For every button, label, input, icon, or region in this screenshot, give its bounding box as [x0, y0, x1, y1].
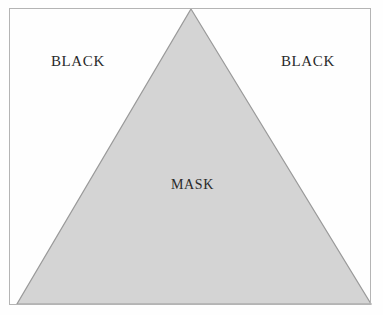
- label-black-left: BLACK: [51, 54, 105, 69]
- label-mask-region: MASK: [171, 178, 214, 192]
- figure-root: BLACK BLACK MASK: [0, 0, 383, 315]
- label-black-right: BLACK: [281, 54, 335, 69]
- caption-fragment: [150, 307, 260, 315]
